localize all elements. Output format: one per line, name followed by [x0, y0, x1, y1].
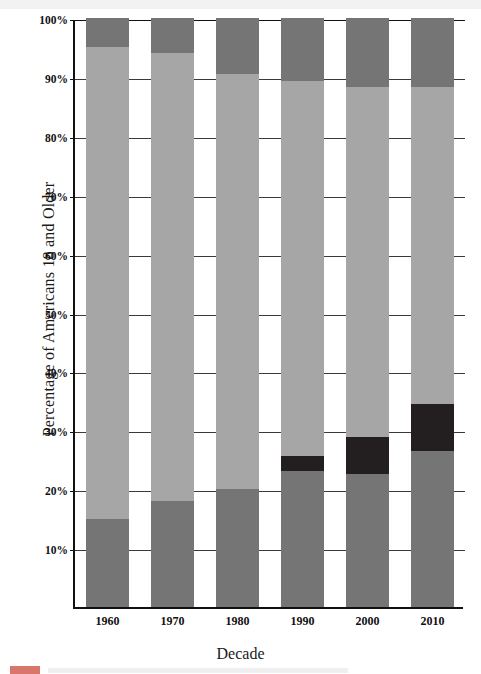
bar-segment-2000-top-segment[interactable]: [346, 18, 389, 87]
y-tick-label-70: 70%: [45, 191, 68, 203]
bar-2010[interactable]: [411, 18, 454, 607]
y-tick-mark-40: [70, 373, 75, 374]
gridline-70: [75, 197, 465, 198]
bar-segment-2000-bottom-segment[interactable]: [346, 474, 389, 607]
x-tick-label-1990: 1990: [291, 614, 315, 629]
bar-segment-2000-middle-light-segment[interactable]: [346, 87, 389, 437]
bar-segment-1990-top-segment[interactable]: [281, 18, 324, 81]
y-tick-label-50: 50%: [45, 309, 68, 321]
bar-1990[interactable]: [281, 18, 324, 607]
gridline-60: [75, 256, 465, 257]
bar-segment-1990-black-segment[interactable]: [281, 456, 324, 471]
bar-segment-2010-top-segment[interactable]: [411, 18, 454, 87]
y-tick-label-40: 40%: [45, 367, 68, 379]
y-tick-mark-50: [70, 315, 75, 316]
gridline-40: [75, 373, 465, 374]
bar-segment-2010-black-segment[interactable]: [411, 404, 454, 451]
bar-segment-1960-middle-light-segment[interactable]: [86, 47, 129, 518]
y-tick-label-60: 60%: [45, 250, 68, 262]
bar-segment-1980-top-segment[interactable]: [216, 18, 259, 74]
bar-1980[interactable]: [216, 18, 259, 607]
gridline-30: [75, 432, 465, 433]
y-tick-mark-70: [70, 197, 75, 198]
y-tick-label-10: 10%: [45, 544, 68, 556]
legend-strip: [48, 668, 348, 673]
y-tick-label-90: 90%: [45, 73, 68, 85]
x-tick-label-2010: 2010: [421, 614, 445, 629]
page-top-artifact: [0, 0, 481, 9]
x-tick-label-1960: 1960: [96, 614, 120, 629]
bar-segment-1990-middle-light-segment[interactable]: [281, 81, 324, 456]
y-tick-mark-80: [70, 138, 75, 139]
bar-segment-1960-bottom-segment[interactable]: [86, 519, 129, 607]
bar-segment-1970-middle-light-segment[interactable]: [151, 53, 194, 501]
bar-segment-1980-middle-light-segment[interactable]: [216, 74, 259, 489]
stacked-bar-chart: Percentage of Americans 18 and Older 10%…: [0, 0, 481, 674]
y-tick-label-20: 20%: [45, 485, 68, 497]
y-tick-label-100: 100%: [39, 14, 68, 26]
gridline-100: [75, 20, 465, 21]
gridline-10: [75, 550, 465, 551]
bar-2000[interactable]: [346, 18, 389, 607]
bar-segment-1970-top-segment[interactable]: [151, 18, 194, 53]
bar-segment-2000-black-segment[interactable]: [346, 437, 389, 475]
bar-segment-1970-bottom-segment[interactable]: [151, 501, 194, 607]
bar-segment-1960-top-segment[interactable]: [86, 18, 129, 47]
bar-segment-2010-middle-light-segment[interactable]: [411, 87, 454, 404]
y-tick-mark-60: [70, 256, 75, 257]
x-tick-label-1970: 1970: [161, 614, 185, 629]
gridline-20: [75, 491, 465, 492]
y-tick-label-80: 80%: [45, 132, 68, 144]
y-tick-mark-30: [70, 432, 75, 433]
legend-swatch-icon: [10, 666, 40, 674]
x-tick-label-2000: 2000: [356, 614, 380, 629]
y-tick-mark-20: [70, 491, 75, 492]
bar-segment-1980-bottom-segment[interactable]: [216, 489, 259, 607]
gridline-50: [75, 315, 465, 316]
bar-segment-2010-bottom-segment[interactable]: [411, 451, 454, 607]
bar-1970[interactable]: [151, 18, 194, 607]
y-tick-mark-10: [70, 550, 75, 551]
x-tick-label-1980: 1980: [226, 614, 250, 629]
bar-1960[interactable]: [86, 18, 129, 607]
y-tick-mark-90: [70, 79, 75, 80]
gridline-90: [75, 79, 465, 80]
y-tick-label-30: 30%: [45, 426, 68, 438]
plot-area: 10%20%30%40%50%60%70%80%90%100%196019701…: [73, 20, 463, 609]
gridline-80: [75, 138, 465, 139]
bar-segment-1990-bottom-segment[interactable]: [281, 471, 324, 607]
y-tick-mark-100: [70, 20, 75, 21]
